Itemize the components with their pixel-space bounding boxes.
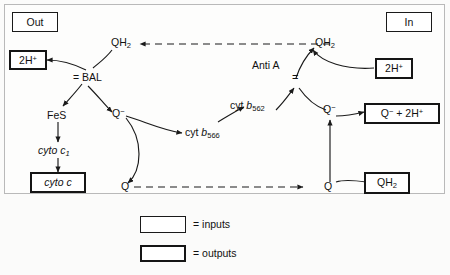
connector-b562-to-antia	[276, 88, 294, 110]
legend-label-inputs: = inputs	[193, 219, 230, 230]
box-proton-out[interactable]: 2H+	[9, 50, 47, 70]
box-proton-in[interactable]: 2H+	[375, 58, 413, 79]
node-q-bottom-left: Q	[121, 181, 129, 192]
box-q-minus-2h-label: Q− + 2H+	[381, 108, 423, 119]
legend-swatch-inputs	[140, 216, 186, 233]
diagram-root: Out In 2H+ 2H+ cyto c Q− + 2H+ QH2 QH2 Q…	[0, 0, 450, 275]
connector-qh2-to-bal	[93, 50, 112, 68]
node-anti-a: Anti A	[252, 60, 279, 71]
box-proton-in-label: 2H+	[385, 63, 403, 74]
node-qh2-left: QH2	[111, 37, 131, 49]
connector-antia-to-qh2-right	[296, 48, 314, 78]
connector-qh2-box-to-q-bottom	[336, 181, 366, 183]
node-q-bottom-right: Q	[324, 181, 332, 192]
anti-a-site-mark: =	[292, 72, 298, 83]
legend-swatch-outputs	[140, 245, 186, 262]
box-qh2-input-label: QH2	[377, 177, 397, 189]
node-q-minus-left: Q−	[112, 108, 125, 119]
node-cyt-b562: cyt b562	[230, 100, 265, 112]
box-qh2-input[interactable]: QH2	[364, 172, 410, 194]
node-bal: = BAL	[73, 72, 102, 83]
box-out-label: Out	[27, 17, 44, 28]
connector-bal-to-qminus	[88, 86, 112, 112]
box-in-label: In	[405, 17, 414, 28]
node-qh2-right: QH2	[315, 37, 335, 49]
node-cyto-c1: cyto c1	[38, 145, 70, 157]
box-cyto-c[interactable]: cyto c	[30, 172, 86, 193]
node-cyt-b566: cyt b566	[185, 127, 220, 139]
legend-row-inputs: = inputs	[140, 216, 230, 233]
connector-qminus-to-q-bottom	[126, 118, 139, 183]
connector-bal-to-2h-out	[47, 60, 86, 70]
legend-row-outputs: = outputs	[140, 245, 237, 262]
connector-qminus-right-to-output	[336, 112, 364, 116]
node-fes: FeS	[47, 110, 66, 121]
box-out[interactable]: Out	[12, 12, 58, 32]
node-q-minus-right: Q−	[323, 104, 336, 115]
box-proton-out-label: 2H+	[19, 55, 37, 66]
box-in[interactable]: In	[386, 12, 432, 32]
connector-qminus-right-to-antia	[299, 88, 326, 110]
connector-2h-in-to-qh2-right	[313, 50, 374, 68]
legend-label-outputs: = outputs	[193, 248, 237, 259]
box-q-minus-2h[interactable]: Q− + 2H+	[364, 103, 440, 124]
connector-bal-to-fes	[63, 84, 82, 106]
diagram-connectors	[0, 0, 450, 275]
box-cyto-c-label: cyto c	[44, 177, 71, 188]
